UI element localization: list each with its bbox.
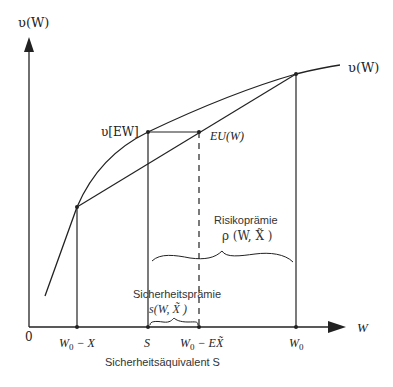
safety-premium-brace <box>150 318 198 325</box>
safety-premium-title: Sicherheitsprämie <box>133 288 221 300</box>
y-axis-label: υ(W) <box>18 15 49 30</box>
v-ew-label: υ[EW] <box>101 125 139 139</box>
utility-diagram: υ(W) υ(W) υ[EW] EU(W) W 0 W0 − X S W0 − … <box>0 0 393 387</box>
safety-premium-formula: s(W, X̃ ) <box>149 302 187 316</box>
y-axis-arrow-icon <box>24 37 34 52</box>
risk-premium-brace <box>152 251 293 262</box>
origin-label: 0 <box>25 330 33 344</box>
curve-label: υ(W) <box>348 60 379 75</box>
risk-premium-title: Risikoprämie <box>214 214 278 226</box>
expected-utility-chord <box>77 74 296 207</box>
risk-premium-formula: ρ (W, X̃ ) <box>222 228 272 243</box>
certainty-equivalent-label: Sicherheitsäquivalent S <box>105 356 220 368</box>
y-axis <box>24 37 34 327</box>
x-axis-arrow-icon <box>328 321 346 333</box>
tick-w0-minus-ex: W0 − EX̃ <box>180 336 224 352</box>
x-axis-label: W <box>357 320 369 335</box>
eu-label: EU(W) <box>209 129 244 143</box>
tick-s: S <box>144 336 150 350</box>
tick-w0-minus-x: W0 − X <box>59 336 96 352</box>
tick-w0: W0 <box>289 336 304 352</box>
